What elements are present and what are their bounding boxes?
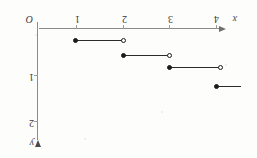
step-segment-3-closed-endpoint bbox=[167, 66, 172, 71]
y-tick-label-2: 2 bbox=[29, 118, 34, 128]
x-tick-label-3: 3 bbox=[168, 14, 173, 24]
step-segment-3 bbox=[169, 67, 221, 68]
x-tick-label-2: 2 bbox=[122, 14, 127, 24]
x-tick-4 bbox=[216, 25, 217, 29]
step-function-figure: 1 2 3 4 x 1 2 y O bbox=[0, 0, 257, 158]
y-axis-line bbox=[37, 22, 38, 140]
y-tick-1 bbox=[34, 75, 38, 76]
x-tick-3 bbox=[169, 25, 170, 29]
origin-label: O bbox=[26, 14, 33, 24]
y-axis-arrow-icon bbox=[35, 140, 41, 147]
x-axis-arrow-icon bbox=[219, 26, 226, 32]
x-tick-1 bbox=[76, 25, 77, 29]
rotated-plate: 1 2 3 4 x 1 2 y O bbox=[0, 0, 257, 158]
x-tick-label-4: 4 bbox=[214, 14, 219, 24]
step-segment-1-closed-endpoint bbox=[73, 39, 78, 44]
step-segment-3-open-endpoint bbox=[219, 66, 224, 71]
x-tick-2 bbox=[123, 25, 124, 29]
x-tick-label-1: 1 bbox=[75, 14, 80, 24]
step-segment-4-closed-endpoint bbox=[214, 85, 219, 90]
y-axis-label: y bbox=[30, 138, 34, 148]
step-segment-1-open-endpoint bbox=[122, 39, 127, 44]
y-tick-label-1: 1 bbox=[29, 72, 34, 82]
y-tick-2 bbox=[34, 121, 38, 122]
step-segment-2 bbox=[123, 55, 170, 56]
step-segment-2-closed-endpoint bbox=[121, 54, 126, 59]
step-segment-1 bbox=[75, 40, 124, 41]
x-axis-line bbox=[39, 28, 219, 29]
x-axis-label: x bbox=[233, 14, 237, 24]
step-segment-2-open-endpoint bbox=[168, 54, 173, 59]
